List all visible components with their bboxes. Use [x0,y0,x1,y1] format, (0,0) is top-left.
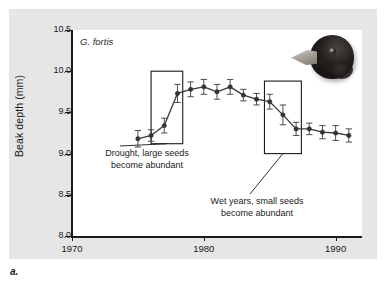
annotation-leader-line-0 [120,144,167,146]
x-tick-label: 1980 [184,243,224,254]
data-point-marker [228,85,232,89]
y-tick-label-wrap: 10.0 [30,66,71,75]
species-label: G. fortis [80,36,113,47]
annotation-leader-line-1 [250,154,283,194]
y-tick-label: 9.5 [41,107,71,116]
y-tick-label: 8.0 [41,231,71,240]
annotation-drought: Drought, large seeds become abundant [88,148,206,171]
data-point-marker [281,113,285,117]
data-point-marker [294,127,298,131]
data-point-marker [241,93,245,97]
x-tick-label: 1990 [316,243,356,254]
figure-panel-a: 8.08.59.09.510.010.5 197019801990 Beak d… [0,0,386,286]
y-tick-label-wrap: 9.5 [30,107,71,116]
y-tick-label: 10.0 [41,66,71,75]
data-point-marker [162,123,166,127]
x-axis-line [71,236,362,238]
data-point-marker [175,91,179,95]
x-tick-label: 1970 [52,243,92,254]
y-axis-title: Beak depth (mm) [13,51,25,181]
y-tick-label: 10.5 [41,25,71,34]
data-point-marker [215,90,219,94]
y-axis-line [71,30,73,238]
finch-eye [329,48,336,54]
finch-beak-shape [291,50,317,65]
data-point-marker [347,133,351,137]
finch-nape-shading [331,61,353,79]
data-point-marker [268,99,272,103]
finch-head-photo [291,33,359,85]
data-point-marker [136,137,140,141]
y-tick-label-wrap: 10.5 [30,25,71,34]
x-tick-mark [204,236,205,241]
data-point-marker [254,97,258,101]
y-tick-label: 8.5 [41,190,71,199]
y-tick-label-wrap: 8.0 [30,231,71,240]
y-tick-label: 9.0 [41,149,71,158]
data-point-marker [149,133,153,137]
data-point-marker [320,130,324,134]
annotation-wet-years: Wet years, small seeds become abundant [196,196,318,219]
y-tick-label-wrap: 8.5 [30,190,71,199]
x-tick-mark [72,236,73,241]
data-point-marker [307,127,311,131]
y-tick-label-wrap: 9.0 [30,149,71,158]
data-point-marker [202,85,206,89]
data-point-marker [333,131,337,135]
figure-caption-label: a. [10,266,18,277]
x-tick-mark [336,236,337,241]
data-point-marker [188,87,192,91]
